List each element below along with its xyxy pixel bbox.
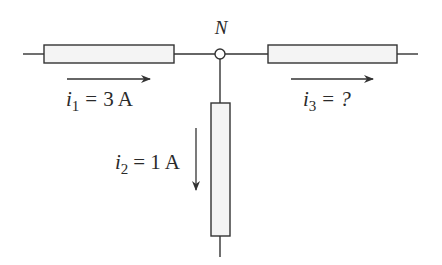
- circuit-diagram: N i1=3 A i3=? i2=1 A: [0, 0, 442, 265]
- left-branch: [23, 45, 215, 63]
- right-resistor: [268, 45, 397, 63]
- current-label-i1: i1=3 A: [66, 87, 134, 114]
- current-label-i2: i2=1 A: [115, 150, 181, 177]
- bottom-resistor: [211, 103, 230, 236]
- node-circle: [215, 49, 225, 59]
- bottom-branch: [211, 59, 230, 257]
- node-label: N: [214, 17, 229, 38]
- current-label-i3: i3=?: [303, 87, 351, 114]
- left-resistor: [44, 45, 174, 63]
- right-branch: [225, 45, 418, 63]
